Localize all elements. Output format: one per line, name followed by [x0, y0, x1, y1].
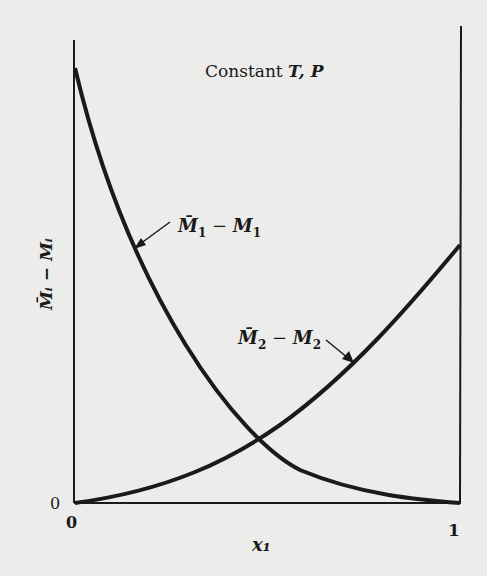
chart-title: Constant T, P: [205, 61, 325, 81]
curve-m1: [75, 68, 460, 503]
y-axis-label: M̄ᵢ − Mᵢ: [36, 238, 56, 311]
arrow-to-curve-m1: [134, 222, 170, 249]
series-label-m1: M̄1 − M1: [177, 215, 261, 240]
y-tick-0: 0: [50, 494, 60, 513]
right-axis: [460, 26, 461, 503]
x-tick-1: 1: [448, 520, 460, 540]
series-label-m2: M̄2 − M2: [237, 327, 321, 352]
x-tick-0: 0: [66, 513, 77, 532]
chart-figure: Constant T, P M̄1 − M1 M̄2 − M2 M̄ᵢ − Mᵢ…: [0, 0, 487, 576]
arrow-to-curve-m2: [326, 340, 354, 363]
curve-m2: [75, 245, 460, 503]
x-axis-label: x₁: [251, 534, 271, 555]
